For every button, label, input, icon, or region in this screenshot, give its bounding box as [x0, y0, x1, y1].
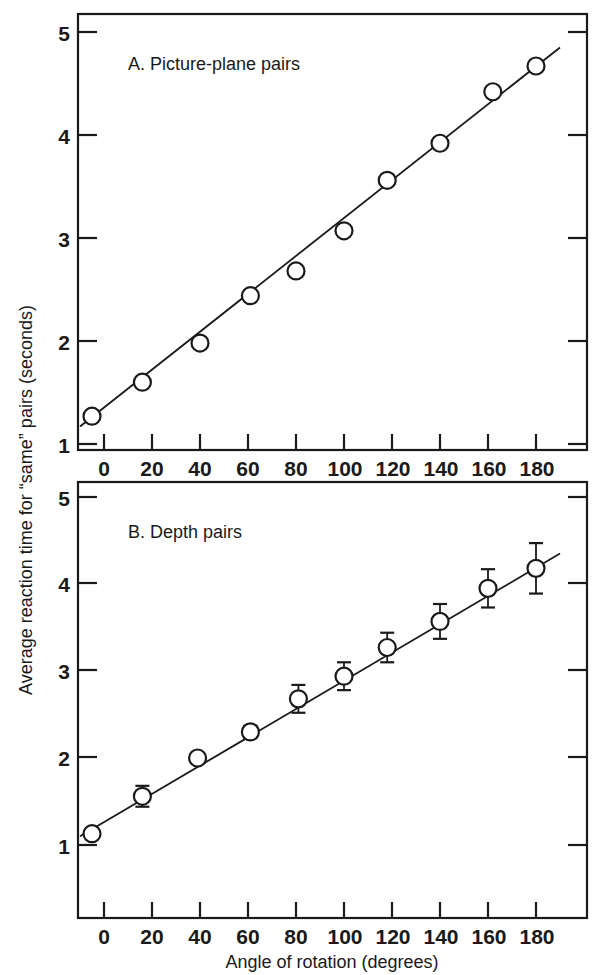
panel-b-xtick-40: 40	[188, 925, 211, 948]
panel-b: 5 4 3 2 1 0 20 40 60 80 100	[58, 482, 587, 948]
panel-b-ytick-3: 3	[58, 660, 70, 683]
panel-b-title: B. Depth pairs	[128, 522, 242, 542]
panel-b-x-ticks	[104, 902, 536, 918]
panel-a-xtick-160: 160	[471, 457, 506, 480]
x-axis-title: Angle of rotation (degrees)	[225, 952, 438, 972]
panel-b-xtick-120: 120	[375, 925, 410, 948]
panel-a-xtick-180: 180	[519, 457, 554, 480]
figure-container: Average reaction time for “same” pairs (…	[0, 0, 602, 975]
panel-b-data-points	[84, 560, 545, 842]
chart-svg: Average reaction time for “same” pairs (…	[0, 0, 602, 975]
panel-b-frame	[78, 482, 587, 918]
panel-b-y-ticks	[78, 497, 97, 845]
panel-b-xtick-0: 0	[98, 925, 110, 948]
panel-b-xtick-60: 60	[236, 925, 259, 948]
panel-b-ytick-5: 5	[58, 487, 70, 510]
panel-b-xtick-100: 100	[327, 925, 362, 948]
panel-a-y-ticks	[78, 32, 97, 444]
panel-b-xtick-80: 80	[284, 925, 307, 948]
panel-b-xtick-140: 140	[423, 925, 458, 948]
panel-a-xtick-80: 80	[284, 457, 307, 480]
panel-b-xtick-180: 180	[519, 925, 554, 948]
panel-a-fit-line	[80, 47, 560, 426]
panel-a-frame	[78, 14, 587, 450]
panel-a: 5 4 3 2 1 0 20 40 60 80	[58, 14, 587, 480]
panel-a-ytick-5: 5	[58, 22, 70, 45]
panel-b-xtick-20: 20	[140, 925, 163, 948]
panel-b-y-ticks-right	[568, 497, 587, 845]
panel-a-x-ticks	[104, 434, 536, 450]
panel-a-xtick-120: 120	[375, 457, 410, 480]
panel-a-ytick-3: 3	[58, 228, 70, 251]
panel-a-y-ticks-right	[568, 32, 587, 444]
panel-a-xtick-140: 140	[423, 457, 458, 480]
panel-a-ytick-4: 4	[58, 125, 70, 148]
panel-a-ytick-2: 2	[58, 331, 70, 354]
panel-b-xtick-160: 160	[471, 925, 506, 948]
panel-b-ytick-1: 1	[58, 835, 70, 858]
panel-a-xtick-40: 40	[188, 457, 211, 480]
y-axis-title: Average reaction time for “same” pairs (…	[16, 305, 36, 695]
panel-a-xtick-20: 20	[140, 457, 163, 480]
panel-a-title: A. Picture-plane pairs	[128, 54, 300, 74]
panel-a-xtick-0: 0	[98, 457, 110, 480]
panel-a-xtick-60: 60	[236, 457, 259, 480]
panel-a-xtick-100: 100	[327, 457, 362, 480]
panel-b-ytick-4: 4	[58, 573, 70, 596]
panel-a-ytick-1: 1	[58, 434, 70, 457]
panel-b-ytick-2: 2	[58, 747, 70, 770]
